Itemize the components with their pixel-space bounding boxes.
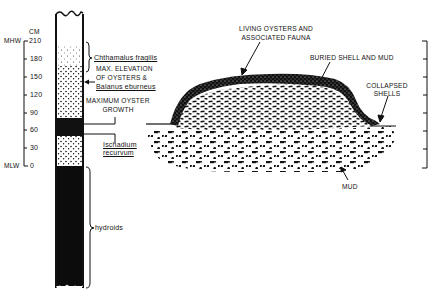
diagram-canvas [0,0,435,297]
mhw-label: MHW [4,37,21,45]
reef-scale-bar [422,41,427,168]
tick-150: 150 [30,73,42,81]
tick-180: 180 [30,55,42,63]
tick-120: 120 [30,91,42,99]
hydroids-label: hydroids [95,224,123,232]
tick-210: 210 [29,37,41,45]
ischadium-line1: Ischadium [103,141,137,149]
max-elevation-line2: OF OYSTERS & [96,74,147,82]
mlw-label: MLW [4,162,20,170]
mud-label: MUD [342,183,358,191]
elevation-scale [24,41,28,166]
max-oyster-growth-band [56,118,83,136]
collapsed-line1: COLLAPSED [362,82,412,90]
oyster-reef-mound [146,74,396,172]
piling-column [56,11,83,288]
balanus-label: Balanus eburneus [96,83,156,91]
max-growth-line2: GROWTH [98,106,138,114]
max-growth-line1: MAXIMUM OYSTER [86,97,150,105]
mud-substrate [146,126,395,172]
ischadium-line2: recurvum [103,149,134,157]
hydroid-zone [56,166,83,286]
collapsed-line2: SHELLS [362,90,412,98]
scale-unit-label: CM [29,28,40,36]
living-oysters-line2: ASSOCIATED FAUNA [228,34,324,42]
chthamalus-label: Chthamalus fragilis [94,54,157,62]
tick-90: 90 [30,109,38,117]
living-oysters-line1: LIVING OYSTERS AND [228,25,324,33]
max-elevation-line1: MAX. ELEVATION [96,65,153,73]
tick-30: 30 [30,144,38,152]
tick-60: 60 [30,126,38,134]
buried-shell-label: BURIED SHELL AND MUD [310,54,394,62]
tick-0: 0 [30,162,34,170]
